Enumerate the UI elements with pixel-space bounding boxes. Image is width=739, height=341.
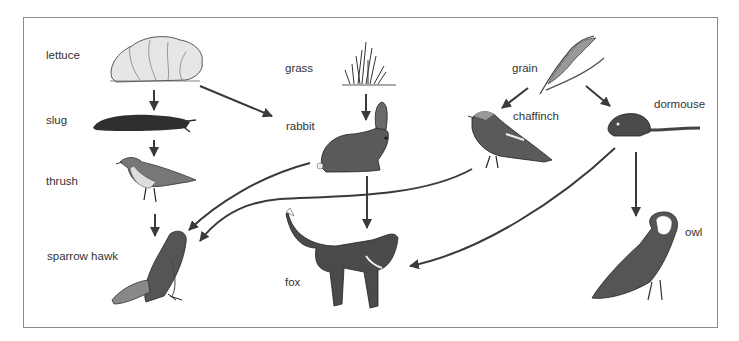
fox-illustration — [286, 208, 398, 308]
label-slug: slug — [46, 114, 67, 126]
label-chaffinch: chaffinch — [513, 110, 559, 122]
label-thrush: thrush — [46, 175, 78, 187]
sparrow-hawk-illustration — [112, 231, 186, 304]
label-grain: grain — [512, 62, 538, 74]
grass-illustration — [342, 42, 396, 85]
label-sparrow-hawk: sparrow hawk — [47, 250, 118, 262]
rabbit-illustration — [317, 102, 388, 172]
owl-illustration — [592, 212, 678, 300]
lettuce-illustration — [110, 37, 202, 82]
arrow-rabbit-to-hawk — [189, 163, 310, 230]
arrow-dormouse-to-fox — [410, 148, 615, 266]
label-fox: fox — [285, 276, 300, 288]
arrow-grain-to-chaffinch — [502, 88, 528, 108]
dormouse-illustration — [608, 114, 700, 136]
label-lettuce: lettuce — [46, 49, 80, 61]
label-dormouse: dormouse — [654, 98, 705, 110]
slug-illustration — [93, 115, 196, 132]
grain-illustration — [540, 36, 604, 94]
thrush-illustration — [116, 158, 196, 203]
arrow-chaffinch-to-hawk — [200, 169, 472, 241]
label-grass: grass — [285, 62, 313, 74]
arrow-grain-to-dormouse — [586, 86, 610, 106]
label-owl: owl — [685, 226, 702, 238]
food-web-canvas — [0, 0, 739, 341]
label-rabbit: rabbit — [286, 120, 315, 132]
arrow-lettuce-to-rabbit — [200, 86, 272, 116]
